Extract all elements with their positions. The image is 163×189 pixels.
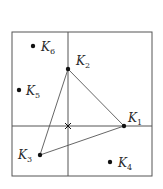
point-label: K4 [117,156,132,172]
diagram-canvas: K1K2K3K4K5K6 [0,0,163,189]
point-dot [66,67,70,71]
point-dot [108,160,112,164]
point-label: K6 [40,40,55,56]
triangle-k1-k2-k3 [40,69,124,155]
point-k4: K4 [108,156,132,172]
point-label: K5 [25,84,40,100]
point-dot [122,124,126,128]
point-dot [38,153,42,157]
point-label: K3 [17,148,32,164]
points-layer: K1K2K3K4K5K6 [17,40,142,172]
point-label: K1 [127,111,142,127]
point-label: K2 [75,54,90,70]
partition-diagram: K1K2K3K4K5K6 [0,0,163,189]
point-dot [17,88,21,92]
point-k5: K5 [17,84,40,100]
point-k6: K6 [31,40,55,56]
point-dot [31,44,35,48]
point-k3: K3 [17,148,42,164]
point-k2: K2 [66,54,90,71]
